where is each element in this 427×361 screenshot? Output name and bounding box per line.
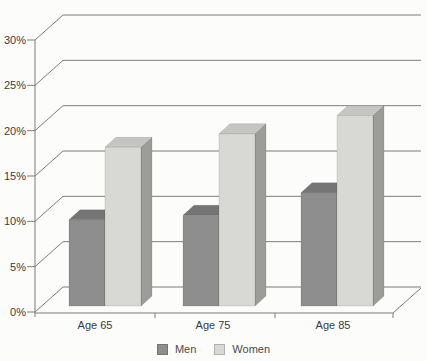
x-category-label: Age 65 — [78, 319, 113, 331]
x-category-label: Age 75 — [196, 319, 231, 331]
y-tick-label: 15% — [4, 170, 26, 182]
chart-legend: Men Women — [0, 343, 427, 355]
bar-men-age-85-front — [301, 193, 337, 306]
legend-label-women: Women — [232, 343, 270, 355]
floor-right-edge — [393, 288, 421, 313]
gridline-depth-segment — [35, 196, 63, 221]
y-tick-label: 5% — [10, 261, 26, 273]
bar-men-age-75-front — [183, 215, 219, 306]
legend-swatch-men — [157, 344, 168, 355]
chart-figure: 0%5%10%15%20%25%30%Age 65Age 75Age 85 Me… — [0, 0, 427, 361]
gridline-depth-segment — [35, 106, 63, 131]
gridline-depth-segment — [35, 287, 63, 312]
bar-chart-3d: 0%5%10%15%20%25%30%Age 65Age 75Age 85 — [0, 0, 427, 361]
bar-women-age-75-side — [255, 124, 266, 306]
bar-women-age-65-side — [141, 137, 152, 306]
y-tick-label: 30% — [4, 34, 26, 46]
gridline-depth-segment — [35, 151, 63, 176]
gridline-depth-segment — [35, 242, 63, 267]
x-category-label: Age 85 — [316, 319, 351, 331]
y-tick-label: 10% — [4, 215, 26, 227]
y-tick-label: 0% — [10, 306, 26, 318]
bar-women-age-85-side — [373, 106, 384, 306]
legend-swatch-women — [214, 344, 225, 355]
y-tick-label: 25% — [4, 79, 26, 91]
bar-women-age-65-front — [105, 147, 141, 306]
gridline-depth-segment — [35, 60, 63, 85]
bar-women-age-85-front — [337, 116, 373, 306]
bar-men-age-65-front — [69, 220, 105, 306]
y-tick-label: 20% — [4, 125, 26, 137]
legend-label-men: Men — [175, 343, 196, 355]
gridline-depth-segment — [35, 15, 63, 40]
bar-women-age-75-front — [219, 134, 255, 306]
